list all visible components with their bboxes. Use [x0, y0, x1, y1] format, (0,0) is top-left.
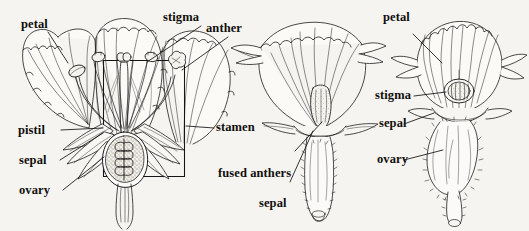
label-fused-anthers: fused anthers — [218, 167, 291, 180]
label-anther-left: anther — [206, 22, 242, 35]
flower-anatomy-figure: petal stigma anther pistil sepal ovary s… — [0, 0, 529, 231]
label-pistil-left: pistil — [18, 124, 45, 137]
label-sepal-right: sepal — [379, 117, 407, 130]
label-stamen-left: stamen — [216, 121, 255, 134]
label-petal-left: petal — [21, 18, 48, 31]
label-ovary-right: ovary — [377, 153, 408, 166]
label-stigma-right: stigma — [375, 89, 411, 102]
label-ovary-left: ovary — [19, 184, 50, 197]
label-petal-right: petal — [383, 11, 410, 24]
panel-front-view-flower — [391, 21, 527, 226]
label-sepal-center: sepal — [259, 197, 287, 210]
label-stigma-left: stigma — [163, 11, 199, 24]
label-sepal-left: sepal — [19, 154, 47, 167]
